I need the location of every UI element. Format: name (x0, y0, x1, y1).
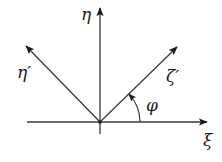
rotated-axes-diagram (0, 0, 222, 162)
eta-prime-axis-label: η′ (17, 64, 31, 81)
xi-axis-label: ξ (203, 132, 212, 149)
xi-prime-axis-label: ζ′ (166, 68, 179, 85)
phi-angle-arc (129, 94, 140, 122)
eta-axis-label: η (81, 6, 91, 23)
phi-angle-label: φ (146, 97, 158, 114)
origin-point (99, 121, 102, 124)
eta-prime-axis (26, 46, 100, 122)
